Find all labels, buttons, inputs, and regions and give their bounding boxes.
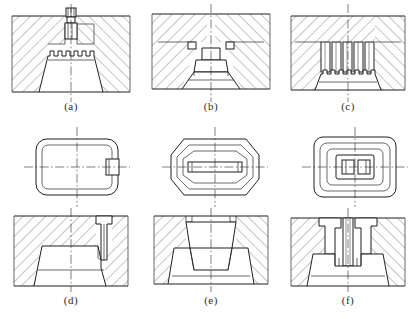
technical-figure: (a) [0,0,415,319]
panel-e-drawing [148,208,274,292]
insert-left [188,42,196,49]
caption-c: (c) [285,100,411,112]
panel-plan-d [22,126,132,208]
ejector-pin-1 [321,42,330,72]
caption-e: (e) [148,294,274,306]
panel-plan-f [300,126,410,208]
panel-e [148,208,274,292]
panel-plan-e [160,126,270,208]
caption-b: (b) [148,100,274,112]
ejector-pin-group [321,42,374,72]
caption-d: (d) [8,294,134,306]
caption-f: (f) [285,294,411,306]
panel-b-drawing [148,4,274,102]
panel-d-drawing [8,208,134,292]
ejector-pin-3 [343,42,352,72]
panel-b [148,4,274,102]
workpiece-tapered [34,246,106,286]
panel-d [8,208,134,292]
panel-f [285,208,411,292]
panel-a [8,4,134,102]
plan-f-drawing [300,126,410,208]
panel-c [285,4,411,102]
caption-a: (a) [8,100,134,112]
panel-c-drawing [285,4,411,102]
panel-f-drawing [285,208,411,292]
panel-a-drawing [8,4,134,102]
insert-right [226,42,234,49]
ejector-pin-4 [354,42,363,72]
ejector-pin-5 [365,42,374,72]
plan-e-drawing [160,126,270,208]
plan-d-drawing [22,126,132,208]
ejector-pin-2 [332,42,341,72]
